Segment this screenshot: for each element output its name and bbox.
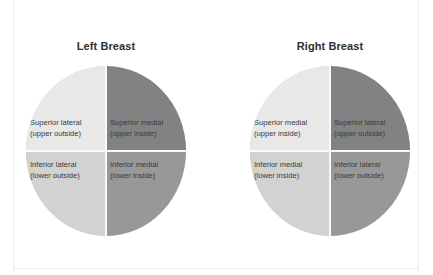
label-detail: (lower inside) xyxy=(110,171,158,182)
label-name: Superior lateral xyxy=(30,118,82,127)
label-name: Superior medial xyxy=(110,118,163,127)
label-detail: (upper inside) xyxy=(254,129,307,140)
label-name: Inferior medial xyxy=(254,160,302,169)
right-breast-label-superior-medial: Superior medial (upper inside) xyxy=(254,118,307,139)
left-breast-label-inferior-medial: Inferior medial (lower inside) xyxy=(110,160,158,181)
label-name: Inferior medial xyxy=(110,160,158,169)
page-frame-left-line xyxy=(13,0,14,275)
label-detail: (lower inside) xyxy=(254,171,302,182)
page-frame-bottom-line xyxy=(13,268,419,269)
left-breast-label-superior-medial: Superior medial (upper inside) xyxy=(110,118,163,139)
label-detail: (upper outside) xyxy=(334,129,386,140)
label-name: Inferior lateral xyxy=(334,160,380,169)
right-breast-diagram: Right Breast Superior medial (upper insi… xyxy=(246,40,414,236)
right-breast-circle: Superior medial (upper inside) Superior … xyxy=(250,66,410,236)
label-name: Superior medial xyxy=(254,118,307,127)
right-breast-label-inferior-medial: Inferior medial (lower inside) xyxy=(254,160,302,181)
left-breast-diagram: Left Breast Superior lateral (upper outs… xyxy=(22,40,190,236)
label-detail: (upper outside) xyxy=(30,129,82,140)
right-breast-label-superior-lateral: Superior lateral (upper outside) xyxy=(334,118,386,139)
breast-quadrant-diagram-page: Left Breast Superior lateral (upper outs… xyxy=(0,0,433,275)
left-breast-label-inferior-lateral: Inferior lateral (lower outside) xyxy=(30,160,80,181)
label-name: Superior lateral xyxy=(334,118,386,127)
label-name: Inferior lateral xyxy=(30,160,76,169)
left-breast-circle: Superior lateral (upper outside) Superio… xyxy=(26,66,186,236)
label-detail: (upper inside) xyxy=(110,129,163,140)
left-breast-title: Left Breast xyxy=(22,40,190,52)
right-breast-horizontal-divider xyxy=(250,150,410,152)
left-breast-label-superior-lateral: Superior lateral (upper outside) xyxy=(30,118,82,139)
right-breast-title: Right Breast xyxy=(246,40,414,52)
page-frame-right-line xyxy=(418,0,419,275)
label-detail: (lower outside) xyxy=(334,171,384,182)
right-breast-label-inferior-lateral: Inferior lateral (lower outside) xyxy=(334,160,384,181)
left-breast-horizontal-divider xyxy=(26,150,186,152)
label-detail: (lower outside) xyxy=(30,171,80,182)
